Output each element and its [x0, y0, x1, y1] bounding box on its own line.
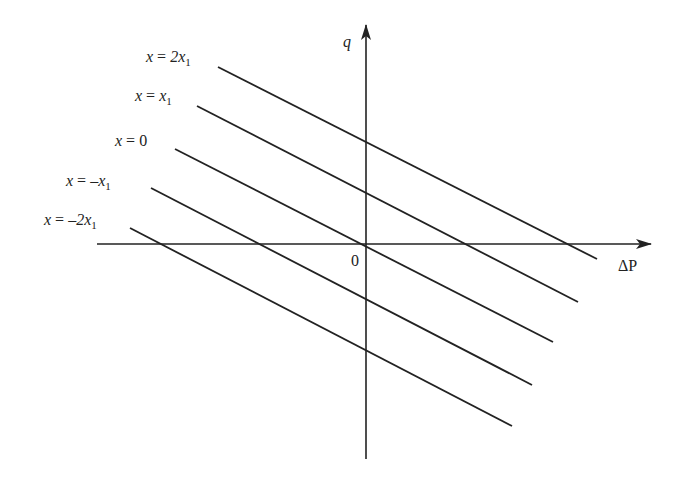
- line-x-neg-x1: [151, 188, 532, 385]
- origin-label: 0: [351, 252, 359, 269]
- q-axis-label: q: [343, 33, 351, 51]
- diagram-canvas: q ΔP 0 x = 2x1 x = x1 x = 0 x = –x1 x = …: [0, 0, 686, 480]
- delta-p-axis-label: ΔP: [618, 257, 637, 274]
- label-x-0: x = 0: [114, 132, 147, 149]
- label-x-2x1: x = 2x1: [145, 48, 191, 68]
- line-x-neg-2x1: [130, 228, 512, 426]
- line-x-0: [175, 149, 553, 342]
- label-x-x1: x = x1: [134, 87, 172, 107]
- line-x-x1: [197, 106, 578, 302]
- line-x-2x1: [218, 67, 597, 259]
- label-x-neg-2x1: x = –2x1: [43, 211, 97, 231]
- label-x-neg-x1: x = –x1: [65, 172, 111, 192]
